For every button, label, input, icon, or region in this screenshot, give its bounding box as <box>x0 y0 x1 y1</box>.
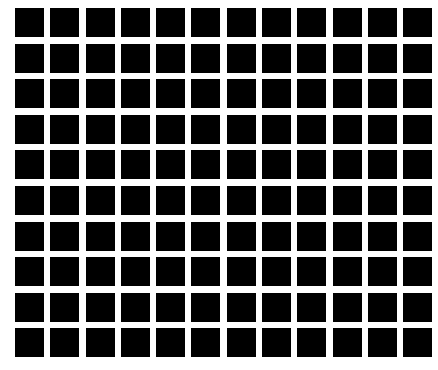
grid-tile <box>191 115 220 144</box>
grid-tile <box>50 8 79 37</box>
grid-tile <box>156 257 185 286</box>
grid-tile <box>86 8 115 37</box>
grid-tile <box>121 186 150 215</box>
grid-tile <box>121 293 150 322</box>
grid-tile <box>86 44 115 73</box>
grid-tile <box>368 8 397 37</box>
grid-tile <box>403 44 432 73</box>
grid-tile <box>191 44 220 73</box>
grid-tile <box>403 186 432 215</box>
grid-tile <box>15 328 44 357</box>
grid-tile <box>403 8 432 37</box>
grid-tile <box>227 150 256 179</box>
grid-tile <box>15 293 44 322</box>
grid-tile <box>191 150 220 179</box>
grid-tile <box>15 186 44 215</box>
grid-tile <box>15 8 44 37</box>
grid-tile <box>227 328 256 357</box>
grid-tile <box>156 115 185 144</box>
grid-tile <box>333 222 362 251</box>
grid-tile <box>403 115 432 144</box>
grid-tile <box>50 44 79 73</box>
grid-tile <box>368 257 397 286</box>
grid-tile <box>15 150 44 179</box>
grid-tile <box>297 257 326 286</box>
grid-tile <box>262 328 291 357</box>
grid-tile <box>191 79 220 108</box>
grid-tile <box>86 293 115 322</box>
grid-tile <box>121 328 150 357</box>
grid-tile <box>403 257 432 286</box>
grid-tile <box>191 222 220 251</box>
grid-tile <box>262 186 291 215</box>
grid-tile <box>403 79 432 108</box>
grid-tile <box>156 186 185 215</box>
grid-tile <box>333 44 362 73</box>
grid-tile <box>15 44 44 73</box>
grid-tile <box>333 8 362 37</box>
grid-tile <box>156 79 185 108</box>
grid-tile <box>191 293 220 322</box>
grid-tile <box>50 115 79 144</box>
grid-tile <box>156 44 185 73</box>
grid-tile <box>50 328 79 357</box>
grid-tile <box>333 293 362 322</box>
grid-tile <box>86 150 115 179</box>
grid-tile <box>333 79 362 108</box>
grid-tile <box>156 328 185 357</box>
grid-tile <box>86 115 115 144</box>
grid-tile <box>15 79 44 108</box>
grid-tile <box>121 8 150 37</box>
grid-tile <box>15 115 44 144</box>
grid-tile <box>368 222 397 251</box>
grid-tile <box>86 186 115 215</box>
grid-tile <box>191 328 220 357</box>
image-canvas: hermann-grid <box>0 0 438 370</box>
grid-tile <box>368 293 397 322</box>
grid-tile <box>368 328 397 357</box>
grid-tile <box>121 115 150 144</box>
grid-tile <box>227 186 256 215</box>
grid-tile <box>227 257 256 286</box>
grid-tile <box>121 44 150 73</box>
grid-tile <box>86 257 115 286</box>
grid-tile <box>368 186 397 215</box>
grid-tile <box>156 293 185 322</box>
grid-tile <box>156 150 185 179</box>
grid-tile <box>297 115 326 144</box>
grid-tile <box>297 79 326 108</box>
grid-tile <box>50 293 79 322</box>
grid-tile <box>262 293 291 322</box>
grid-tile <box>368 115 397 144</box>
grid-tile <box>50 186 79 215</box>
grid-tile <box>121 79 150 108</box>
grid-tile <box>297 186 326 215</box>
grid-tile <box>262 115 291 144</box>
grid-tile <box>121 257 150 286</box>
grid-tile <box>121 222 150 251</box>
grid-tile <box>262 257 291 286</box>
grid-tile <box>297 293 326 322</box>
grid-tile <box>262 8 291 37</box>
grid-tile <box>227 293 256 322</box>
grid-tile <box>403 222 432 251</box>
grid-tile <box>368 79 397 108</box>
grid-tile <box>227 79 256 108</box>
grid-tile <box>191 186 220 215</box>
grid-tile <box>333 115 362 144</box>
grid-tile <box>227 44 256 73</box>
grid-tile <box>333 257 362 286</box>
grid-tile <box>403 293 432 322</box>
grid-tile <box>227 222 256 251</box>
grid-tile <box>50 150 79 179</box>
grid-tile <box>15 222 44 251</box>
grid-tile <box>297 8 326 37</box>
grid-tile <box>50 222 79 251</box>
grid-tile <box>50 257 79 286</box>
grid-tile <box>262 150 291 179</box>
hermann-grid <box>15 8 425 362</box>
grid-tile <box>121 150 150 179</box>
grid-tile <box>86 222 115 251</box>
grid-tile <box>333 186 362 215</box>
grid-tile <box>297 328 326 357</box>
